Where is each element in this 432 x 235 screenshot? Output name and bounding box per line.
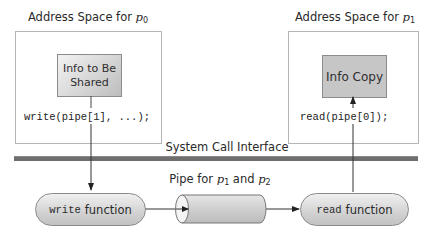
read-function-node: readfunction: [300, 193, 409, 226]
pipe-label: Pipe for p1 and p2: [169, 172, 270, 187]
write-fn-keyword: write: [49, 204, 81, 216]
pipe-sub2: 2: [266, 178, 271, 187]
write-function-node: writefunction: [35, 193, 146, 226]
write-fn-text: function: [85, 203, 132, 217]
read-fn-text: function: [346, 203, 393, 217]
pipe-label-prefix: Pipe for: [169, 172, 216, 186]
pipe-var1: p: [217, 172, 224, 186]
pipe-label-middle: and: [229, 172, 258, 186]
pipe-cylinder: [176, 195, 267, 223]
read-fn-keyword: read: [316, 204, 341, 216]
